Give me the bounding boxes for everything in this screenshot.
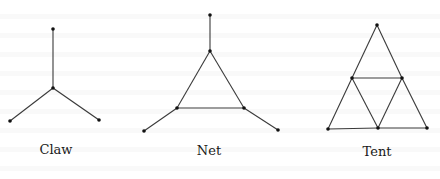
graph-edge [210,51,244,108]
graph-edge [328,128,378,129]
graph-edge [378,78,402,128]
graph-figure: Claw Net Tent [0,0,440,179]
graph-vertex [8,119,12,123]
graph-edge [328,78,352,129]
graph-vertex [326,127,330,131]
graph-edge [244,108,278,130]
net-label: Net [197,143,221,158]
tent-label: Tent [363,144,392,159]
graph-vertex [97,118,101,122]
claw-graph [8,27,101,123]
graph-edge [53,88,99,120]
graph-edge [10,88,53,121]
graph-vertex [142,129,146,133]
graph-vertex [175,106,179,110]
tent-graph [326,23,429,131]
graph-vertex [208,13,212,17]
graph-vertex [276,128,280,132]
graph-vertex [208,49,212,53]
graph-vertex [51,86,55,90]
graph-vertex [350,76,354,80]
claw-label: Claw [40,142,73,157]
graph-edge [177,51,210,108]
graph-edge [402,78,427,128]
graph-edge [377,25,402,78]
graph-vertex [375,23,379,27]
graph-vertex [425,126,429,130]
graph-vertex [51,27,55,31]
graph-edge [352,78,378,128]
graph-edge [144,108,177,131]
net-graph [142,13,280,133]
graph-edge [352,25,377,78]
graph-vertex [242,106,246,110]
graph-vertex [400,76,404,80]
graph-vertex [376,126,380,130]
